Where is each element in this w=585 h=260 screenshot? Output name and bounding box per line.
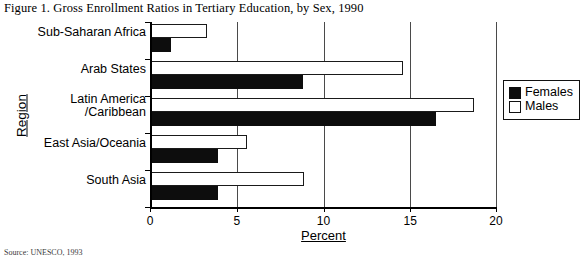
legend-label-males: Males [525,100,558,113]
figure-root: Figure 1. Gross Enrollment Ratios in Ter… [0,0,585,260]
category-label-sub-saharan-africa: Sub-Saharan Africa [0,26,146,39]
x-tick-label-0: 0 [135,214,165,228]
legend-item-males: Males [509,100,573,113]
source-note: Source: UNESCO, 1993 [4,248,82,257]
y-axis-line [150,22,152,209]
legend-item-females: Females [509,86,573,99]
x-tick-15 [410,207,411,212]
bar-females-sub-saharan-africa [150,38,171,52]
bar-males-arab-states [150,61,403,75]
plot-area: 0 5 10 15 20 [150,22,497,209]
x-tick-20 [496,207,497,212]
bar-males-latin-america-caribbean [150,98,474,112]
bar-females-arab-states [150,75,303,89]
legend-swatch-males-icon [509,101,521,113]
x-tick-label-10: 10 [309,214,339,228]
legend-swatch-females-icon [509,87,521,99]
bar-males-south-asia [150,172,304,186]
y-axis-title: Region [14,71,29,161]
bar-females-east-asia-oceania [150,149,218,163]
bar-males-east-asia-oceania [150,135,247,149]
bar-males-sub-saharan-africa [150,24,207,38]
legend-label-females: Females [525,86,573,99]
category-label-south-asia: South Asia [0,174,146,187]
figure-title: Figure 1. Gross Enrollment Ratios in Ter… [4,1,364,16]
bar-females-south-asia [150,186,218,200]
x-tick-10 [324,207,325,212]
x-axis-title: Percent [150,228,497,243]
legend: Females Males [503,80,580,120]
bar-females-latin-america-caribbean [150,112,436,126]
x-tick-label-5: 5 [222,214,252,228]
gridline-20 [496,22,497,207]
x-tick-label-15: 15 [395,214,425,228]
x-tick-0 [150,207,151,212]
x-tick-label-20: 20 [481,214,511,228]
x-tick-5 [237,207,238,212]
